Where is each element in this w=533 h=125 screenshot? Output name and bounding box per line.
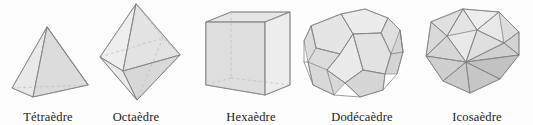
dodecahedron-faces xyxy=(304,9,403,97)
octahedron-diagram xyxy=(0,0,533,125)
dodecahedron-diagram xyxy=(0,0,533,125)
caption-hexahedron: Hexaèdre xyxy=(203,110,299,125)
tetrahedron-faces xyxy=(12,27,88,97)
platonic-solids-figure: Tétraèdre Octaèdre Hexaèdre Dodécaèdre I… xyxy=(0,0,533,125)
caption-dodecahedron: Dodécaèdre xyxy=(310,110,414,125)
icosahedron-faces xyxy=(426,9,519,93)
caption-tetrahedron: Tétraèdre xyxy=(0,110,96,125)
hexahedron-diagram xyxy=(0,0,533,125)
icosahedron-diagram xyxy=(0,0,533,125)
tetrahedron-diagram xyxy=(0,0,533,125)
octahedron-faces xyxy=(100,4,180,100)
caption-icosahedron: Icosaèdre xyxy=(429,110,525,125)
hexahedron-faces xyxy=(206,12,290,95)
caption-octahedron: Octaèdre xyxy=(88,110,184,125)
